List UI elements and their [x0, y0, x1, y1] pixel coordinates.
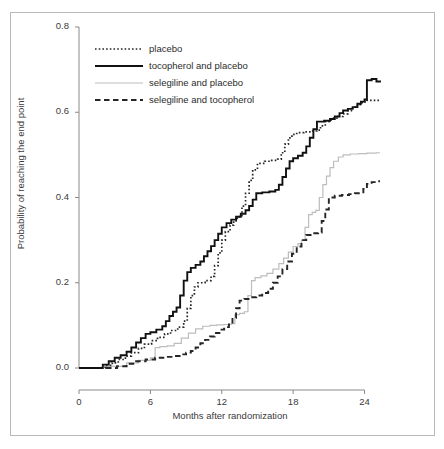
chart-plot-area: Probability of reaching the end point Mo… [0, 0, 444, 449]
x-tick-label: 12 [209, 396, 235, 407]
legend-label: selegiline and placebo [143, 77, 243, 88]
legend-item: placebo [95, 40, 325, 57]
chart-legend: placebotocopherol and placeboselegiline … [95, 40, 325, 108]
y-axis-title: Probability of reaching the end point [15, 94, 26, 254]
x-tick-label: 6 [137, 396, 163, 407]
legend-swatch-solid-light [95, 77, 143, 89]
y-tick-label: 0.0 [45, 361, 69, 372]
x-tick-label: 24 [352, 396, 378, 407]
y-tick-label: 0.2 [45, 276, 69, 287]
legend-swatch-solid [95, 60, 143, 72]
legend-item: selegiline and tocopherol [95, 91, 325, 108]
legend-label: tocopherol and placebo [143, 60, 248, 71]
legend-item: tocopherol and placebo [95, 57, 325, 74]
series-line-selegiline-and-placebo [79, 153, 380, 368]
series-line-selegiline-and-tocopherol [79, 181, 380, 368]
legend-swatch-dotted [95, 43, 143, 55]
x-tick-label: 0 [66, 396, 92, 407]
legend-label: selegiline and tocopherol [143, 94, 254, 105]
y-tick-label: 0.6 [45, 105, 69, 116]
y-tick-label: 0.8 [45, 20, 69, 31]
legend-item: selegiline and placebo [95, 74, 325, 91]
legend-swatch-dashed [95, 94, 143, 106]
legend-label: placebo [143, 43, 182, 54]
x-tick-label: 18 [280, 396, 306, 407]
x-axis-title: Months after randomization [120, 410, 340, 421]
y-tick-label: 0.4 [45, 191, 69, 202]
